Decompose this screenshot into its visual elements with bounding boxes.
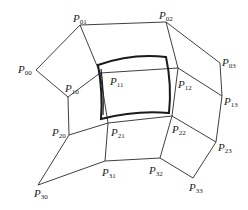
label-subscript: 31 bbox=[109, 172, 116, 180]
label-base: P bbox=[218, 141, 225, 153]
edge-p20-p30 bbox=[38, 135, 69, 185]
label-subscript: 33 bbox=[196, 187, 203, 195]
label-p01: P01 bbox=[73, 13, 87, 26]
label-base: P bbox=[178, 78, 185, 90]
edge-p23-p33 bbox=[193, 142, 216, 178]
edge-p01-p02 bbox=[80, 22, 166, 25]
label-subscript: 11 bbox=[117, 81, 124, 89]
label-subscript: 30 bbox=[41, 193, 48, 201]
label-base: P bbox=[111, 126, 118, 138]
surface-patch bbox=[98, 56, 170, 119]
edge-p21-p31 bbox=[105, 123, 108, 161]
label-p00: P00 bbox=[18, 64, 32, 77]
label-subscript: 22 bbox=[179, 129, 186, 137]
edge-p13-p23 bbox=[216, 96, 222, 142]
label-base: P bbox=[224, 95, 231, 107]
label-p03: P03 bbox=[222, 57, 236, 70]
label-p13: P13 bbox=[224, 96, 238, 109]
edge-p00-p01 bbox=[36, 25, 80, 70]
label-subscript: 32 bbox=[156, 170, 163, 178]
label-base: P bbox=[52, 126, 59, 138]
edge-p31-p32 bbox=[105, 158, 160, 161]
control-net-diagram bbox=[0, 0, 248, 210]
label-base: P bbox=[172, 123, 179, 135]
label-subscript: 23 bbox=[225, 147, 232, 155]
label-base: P bbox=[159, 9, 166, 21]
label-p11: P11 bbox=[110, 76, 123, 89]
label-base: P bbox=[34, 187, 41, 199]
label-base: P bbox=[102, 166, 109, 178]
label-p32: P32 bbox=[149, 165, 163, 178]
edge-p30-p31 bbox=[38, 161, 105, 185]
edge-p22-p32 bbox=[160, 116, 172, 158]
label-p10: P10 bbox=[65, 83, 79, 96]
label-p22: P22 bbox=[172, 124, 186, 137]
label-subscript: 00 bbox=[25, 69, 32, 77]
label-subscript: 01 bbox=[80, 18, 87, 26]
label-subscript: 10 bbox=[72, 88, 79, 96]
edge-p12-p22 bbox=[172, 68, 178, 116]
label-subscript: 03 bbox=[229, 62, 236, 70]
label-subscript: 21 bbox=[118, 132, 125, 140]
label-subscript: 12 bbox=[185, 84, 192, 92]
label-base: P bbox=[65, 82, 72, 94]
label-subscript: 20 bbox=[59, 132, 66, 140]
edge-p01-p11 bbox=[80, 25, 100, 73]
label-p23: P23 bbox=[218, 142, 232, 155]
label-p30: P30 bbox=[34, 188, 48, 201]
label-subscript: 02 bbox=[166, 15, 173, 23]
edge-p02-p03 bbox=[166, 22, 220, 63]
label-p31: P31 bbox=[102, 167, 116, 180]
edge-p32-p33 bbox=[160, 158, 193, 178]
label-base: P bbox=[189, 181, 196, 193]
label-p12: P12 bbox=[178, 79, 192, 92]
label-p21: P21 bbox=[111, 127, 125, 140]
edge-p00-p10 bbox=[36, 70, 68, 97]
label-p20: P20 bbox=[52, 127, 66, 140]
edge-p11-p12 bbox=[100, 68, 178, 73]
edge-p21-p22 bbox=[108, 116, 172, 123]
edge-p20-p21 bbox=[69, 123, 108, 135]
label-p33: P33 bbox=[189, 182, 203, 195]
control-net-edges bbox=[36, 22, 222, 185]
label-p02: P02 bbox=[159, 10, 173, 23]
label-base: P bbox=[73, 12, 80, 24]
label-base: P bbox=[18, 63, 25, 75]
label-subscript: 13 bbox=[231, 101, 238, 109]
label-base: P bbox=[110, 75, 117, 87]
label-base: P bbox=[149, 164, 156, 176]
label-base: P bbox=[222, 56, 229, 68]
edge-p10-p20 bbox=[68, 97, 69, 135]
